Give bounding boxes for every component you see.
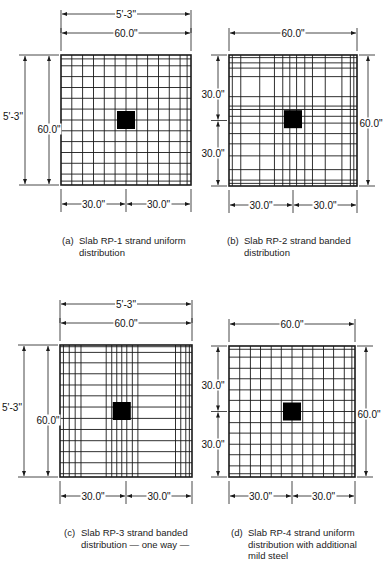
arrowhead-icon <box>61 494 66 498</box>
arrowhead-icon <box>293 494 298 498</box>
dim-right-b: 60.0" <box>358 118 383 129</box>
caption-d-tag: (d) <box>231 527 243 539</box>
arrowhead-icon <box>120 202 125 206</box>
arrowhead-icon <box>216 413 220 418</box>
arrowhead-icon <box>120 494 125 498</box>
arrowhead-icon <box>23 56 27 61</box>
caption-b-tag: (b) <box>227 235 239 247</box>
dim-bottom-left-a: 30.0" <box>81 199 106 210</box>
dim-right-d: 60.0" <box>356 409 381 420</box>
arrowhead-icon <box>216 180 220 185</box>
arrowhead-icon <box>47 179 51 184</box>
arrowhead-icon <box>216 115 220 120</box>
arrowhead-icon <box>351 203 356 207</box>
dim-bottom-right-a: 30.0" <box>146 199 171 210</box>
dim-left-inner-a: 60.0" <box>36 124 61 135</box>
arrowhead-icon <box>62 202 67 206</box>
dim-left-outer-a: 5'-3" <box>2 111 24 122</box>
arrowhead-icon <box>127 494 132 498</box>
arrowhead-icon <box>127 202 132 206</box>
arrowhead-icon <box>47 56 51 61</box>
arrowhead-icon <box>22 471 26 476</box>
arrowhead-icon <box>22 346 26 351</box>
dim-bottom-right-b: 30.0" <box>312 200 337 211</box>
caption-c-text: Slab RP-3 strand banded distribution — o… <box>81 527 189 550</box>
arrowhead-icon <box>366 180 370 185</box>
dim-top-inner-b: 60.0" <box>280 28 305 39</box>
arrowhead-icon <box>62 31 67 35</box>
caption-c: (c) Slab RP-3 strand banded distribution… <box>64 527 204 563</box>
arrowhead-icon <box>216 406 220 411</box>
caption-c-tag: (c) <box>64 527 75 539</box>
dim-top-outer-c: 5'-3" <box>115 299 137 310</box>
arrowhead-icon <box>287 203 292 207</box>
caption-d-text: Slab RP-4 strand uniform distribution wi… <box>248 527 357 562</box>
arrowhead-icon <box>216 347 220 352</box>
arrowhead-icon <box>62 12 67 16</box>
arrowhead-icon <box>294 203 299 207</box>
dim-left-bottom-d: 30.0" <box>200 439 225 450</box>
dim-left-top-d: 30.0" <box>200 380 225 391</box>
arrowhead-icon <box>351 31 356 35</box>
arrowhead-icon <box>349 322 354 326</box>
dim-bottom-left-d: 30.0" <box>248 491 273 502</box>
caption-b-text: Slab RP-2 strand banded distribution <box>244 235 351 258</box>
arrowhead-icon <box>349 494 354 498</box>
caption-b: (b) Slab RP-2 strand banded distribution <box>227 235 377 271</box>
dim-bottom-left-b: 30.0" <box>248 200 273 211</box>
arrowhead-icon <box>186 494 191 498</box>
dim-left-top-b: 30.0" <box>200 89 225 100</box>
caption-a: (a) Slab RP-1 strand uniform distributio… <box>62 235 202 271</box>
arrowhead-icon <box>216 471 220 476</box>
dim-bottom-right-c: 30.0" <box>146 491 171 502</box>
dim-top-inner-d: 60.0" <box>279 319 304 330</box>
dim-left-inner-c: 60.0" <box>35 415 60 426</box>
arrowhead-icon <box>230 203 235 207</box>
caption-a-tag: (a) <box>62 235 74 247</box>
column-b <box>284 110 302 128</box>
column-c <box>113 402 131 420</box>
dim-top-inner-a: 60.0" <box>113 28 138 39</box>
arrowhead-icon <box>46 471 50 476</box>
arrowhead-icon <box>185 31 190 35</box>
arrowhead-icon <box>366 56 370 61</box>
arrowhead-icon <box>364 471 368 476</box>
arrowhead-icon <box>230 494 235 498</box>
arrowhead-icon <box>46 346 50 351</box>
arrowhead-icon <box>61 321 66 325</box>
arrowhead-icon <box>364 347 368 352</box>
arrowhead-icon <box>230 31 235 35</box>
arrowhead-icon <box>185 202 190 206</box>
column-a <box>117 111 135 129</box>
arrowhead-icon <box>230 322 235 326</box>
arrowhead-icon <box>186 302 191 306</box>
column-d <box>283 403 301 421</box>
arrowhead-icon <box>286 494 291 498</box>
dim-left-bottom-b: 30.0" <box>200 148 225 159</box>
arrowhead-icon <box>186 321 191 325</box>
arrowhead-icon <box>23 179 27 184</box>
caption-d: (d) Slab RP-4 strand uniform distributio… <box>231 527 389 567</box>
arrowhead-icon <box>185 12 190 16</box>
arrowhead-icon <box>216 122 220 127</box>
dim-left-outer-c: 5'-3" <box>1 402 23 413</box>
arrowhead-icon <box>216 56 220 61</box>
caption-a-text: Slab RP-1 strand uniform distribution <box>79 235 186 258</box>
dim-top-outer-a: 5'-3" <box>115 9 137 20</box>
slab-strand-diagram <box>0 0 389 569</box>
arrowhead-icon <box>61 302 66 306</box>
dim-bottom-right-d: 30.0" <box>311 491 336 502</box>
dim-top-inner-c: 60.0" <box>113 318 138 329</box>
dim-bottom-left-c: 30.0" <box>80 491 105 502</box>
